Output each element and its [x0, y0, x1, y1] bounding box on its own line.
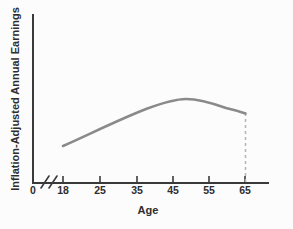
x-tick-label: 65 [239, 184, 251, 196]
y-axis-title: Inflation-Adjusted Annual Earnings [9, 7, 21, 191]
x-tick-label: 45 [167, 184, 179, 196]
x-tick-label: 55 [203, 184, 215, 196]
x-tick-label: 25 [94, 184, 106, 196]
x-axis-origin-label: 0 [30, 184, 36, 196]
x-axis-title: Age [138, 204, 159, 216]
chart-canvas: 0 18 25 35 45 55 65 Age Inflation-Adjust… [0, 0, 293, 229]
x-axis-ticks [63, 176, 245, 183]
x-tick-label: 35 [131, 184, 143, 196]
x-tick-label: 18 [57, 184, 69, 196]
earnings-age-chart: 0 18 25 35 45 55 65 Age Inflation-Adjust… [0, 0, 293, 229]
earnings-curve [63, 99, 246, 146]
